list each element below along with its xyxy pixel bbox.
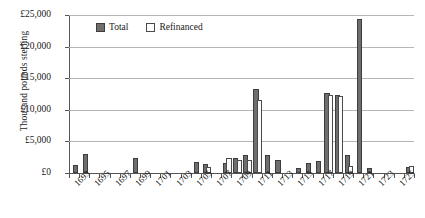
y-tick-label: £25,000 <box>20 10 51 20</box>
bar-total-1693 <box>73 165 78 173</box>
y-tick-label: £5,000 <box>25 136 51 146</box>
bar-chart: Thousand pounds sterling Total Refinance… <box>0 0 425 218</box>
bar-series-group <box>69 15 414 174</box>
y-tick-label: £20,000 <box>20 42 51 52</box>
bar-refinanced-1711 <box>257 100 262 173</box>
y-tick-label: £10,000 <box>20 105 51 115</box>
bar-refinanced-1719 <box>338 96 343 173</box>
bar-refinanced-1709 <box>237 160 242 173</box>
y-tick-label: £0 <box>42 168 52 178</box>
bar-total-1721 <box>357 19 362 173</box>
x-tick-mark <box>69 174 70 178</box>
y-tick-label: £15,000 <box>20 73 51 83</box>
bar-total-1717 <box>316 161 321 173</box>
bar-total-1713 <box>275 160 280 173</box>
bar-refinanced-1718 <box>328 95 333 173</box>
bar-total-1699 <box>133 158 138 173</box>
bar-total-1715 <box>296 168 301 173</box>
bar-total-1705 <box>194 162 199 173</box>
plot-area: £0£5,000£10,000£15,000£20,000£25,000 169… <box>69 15 414 174</box>
